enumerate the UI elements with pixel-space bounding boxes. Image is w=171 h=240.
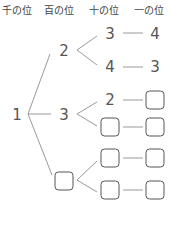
tens-answer-box-5[interactable]	[101, 149, 120, 168]
hundreds-digit-1: 2	[59, 44, 69, 59]
ones-digit-1: 4	[150, 27, 160, 42]
hundreds-answer-box[interactable]	[55, 172, 74, 191]
ones-answer-box-4[interactable]	[146, 118, 165, 137]
thousands-digit: 1	[12, 108, 22, 123]
tens-answer-box-4[interactable]	[101, 118, 120, 137]
ones-answer-box-5[interactable]	[146, 149, 165, 168]
tens-digit-1: 3	[105, 27, 115, 42]
tens-answer-box-6[interactable]	[101, 181, 120, 200]
ones-digit-2: 3	[150, 60, 160, 75]
hundreds-digit-2: 3	[59, 108, 69, 123]
ones-answer-box-3[interactable]	[146, 91, 165, 110]
ones-answer-box-6[interactable]	[146, 181, 165, 200]
tens-digit-3: 2	[105, 93, 115, 108]
tens-digit-2: 4	[105, 60, 115, 75]
